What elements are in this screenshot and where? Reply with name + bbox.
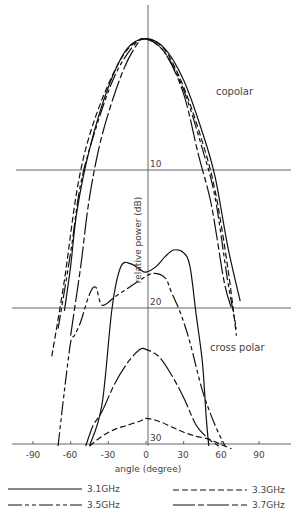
y-tick-20: 20 xyxy=(150,297,162,307)
y-axis-label: relative power (dB) xyxy=(133,197,143,283)
y-tick-30: 30 xyxy=(150,433,162,443)
legend-label-3.1ghz: 3.1GHz xyxy=(87,484,120,494)
y-tick-10: 10 xyxy=(150,159,162,169)
x-tick-label: -90 xyxy=(26,450,41,460)
x-tick-label: 0 xyxy=(143,450,149,460)
x-tick-label: -30 xyxy=(101,450,116,460)
cross-polar-curve-3.7ghz xyxy=(86,348,219,446)
x-tick-label: 60 xyxy=(215,450,227,460)
x-tick-label: -60 xyxy=(63,450,78,460)
copolar-curve-3.5ghz xyxy=(58,39,236,329)
radiation-pattern-chart: 10 20 30 -90 -60 -30 0 30 60 90 angle (d… xyxy=(0,0,302,525)
cross-polar-annotation: cross polar xyxy=(210,342,265,353)
legend: 3.1GHz 3.3GHz 3.5GHz 3.7GHz xyxy=(8,484,285,510)
x-tick-label: 90 xyxy=(253,450,265,460)
x-axis-label: angle (degree) xyxy=(115,464,181,474)
x-tick-label: 30 xyxy=(177,450,189,460)
legend-label-3.5ghz: 3.5GHz xyxy=(87,500,120,510)
legend-label-3.3ghz: 3.3GHz xyxy=(252,485,285,495)
legend-label-3.7ghz: 3.7GHz xyxy=(252,500,285,510)
copolar-annotation: copolar xyxy=(216,86,254,97)
curves xyxy=(52,39,240,449)
copolar-curve-3.7ghz xyxy=(71,39,232,336)
